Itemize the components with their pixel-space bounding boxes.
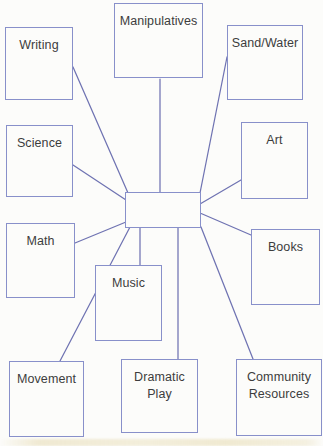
node-books: Books	[251, 229, 320, 305]
connector-center-books	[200, 213, 251, 235]
connector-center-math	[75, 222, 126, 243]
node-science-label: Science	[17, 135, 62, 152]
node-dramatic-play-label: Dramatic Play	[126, 369, 193, 403]
node-community-resources: Community Resources	[236, 359, 322, 436]
node-art-label: Art	[266, 132, 282, 149]
node-music-label: Music	[112, 275, 145, 292]
connector-center-art	[200, 180, 241, 204]
connector-center-community-resources	[201, 227, 253, 359]
node-center	[125, 192, 201, 228]
node-music: Music	[95, 265, 162, 341]
node-movement: Movement	[9, 361, 84, 437]
node-math-label: Math	[26, 233, 54, 250]
node-art: Art	[241, 122, 308, 199]
scan-artifact-band	[0, 439, 323, 446]
concept-map: Writing Manipulatives Sand/Water Science…	[0, 0, 323, 446]
node-sand-water-label: Sand/Water	[232, 35, 299, 52]
connector-center-sand-water	[200, 57, 227, 193]
node-books-label: Books	[268, 239, 303, 256]
connector-center-writing	[73, 67, 128, 193]
node-community-resources-label: Community Resources	[241, 369, 317, 403]
node-writing-label: Writing	[19, 37, 58, 54]
node-math: Math	[6, 223, 75, 298]
node-writing: Writing	[5, 27, 73, 100]
node-science: Science	[6, 125, 73, 197]
node-manipulatives: Manipulatives	[114, 3, 203, 78]
node-dramatic-play: Dramatic Play	[121, 359, 198, 433]
node-sand-water: Sand/Water	[227, 25, 303, 100]
node-manipulatives-label: Manipulatives	[120, 13, 198, 30]
node-movement-label: Movement	[17, 371, 76, 388]
